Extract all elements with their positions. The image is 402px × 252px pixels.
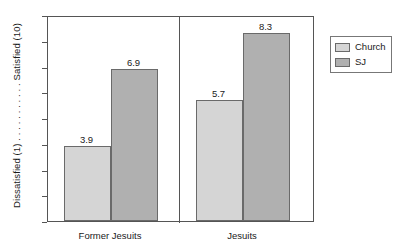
bar-jesuits-sj xyxy=(243,33,290,221)
legend-label-church: Church xyxy=(355,42,386,52)
x-category-label-former-jesuits: Former Jesuits xyxy=(63,230,157,241)
value-label-jesuits-church: 5.7 xyxy=(195,88,242,99)
legend: Church SJ xyxy=(330,36,392,73)
y-tick-mark-1 xyxy=(42,222,47,223)
plot-area xyxy=(47,16,314,222)
value-label-jesuits-sj: 8.3 xyxy=(242,21,289,32)
legend-swatch-church-icon xyxy=(335,43,350,52)
legend-item-church: Church xyxy=(335,41,386,53)
bar-former-jesuits-church xyxy=(64,146,111,221)
legend-item-sj: SJ xyxy=(335,56,386,68)
value-label-former-jesuits-sj: 6.9 xyxy=(110,57,157,68)
y-axis-title: Dissatisfied (1) . . . . . . . . . . . S… xyxy=(11,16,22,216)
legend-label-sj: SJ xyxy=(355,57,366,67)
x-category-label-jesuits: Jesuits xyxy=(195,230,289,241)
legend-swatch-sj-icon xyxy=(335,58,350,67)
bar-jesuits-church xyxy=(196,100,243,221)
bar-former-jesuits-sj xyxy=(111,69,158,221)
value-label-former-jesuits-church: 3.9 xyxy=(63,134,110,145)
bar-chart: Dissatisfied (1) . . . . . . . . . . . S… xyxy=(0,0,402,252)
group-divider xyxy=(179,17,180,223)
